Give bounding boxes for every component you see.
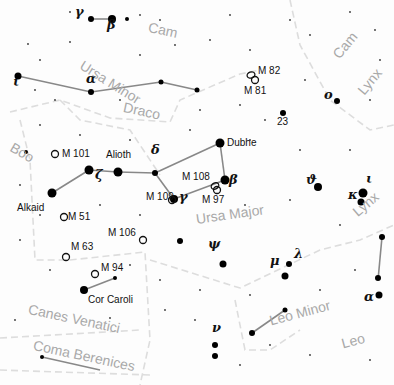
- greek-letter-label: ψ: [208, 237, 220, 250]
- greek-letter-label: λ: [294, 247, 303, 260]
- constellation-boundaries: [0, 0, 394, 385]
- greek-letter-label: δ: [151, 143, 160, 156]
- greek-letter-label: α: [364, 290, 374, 303]
- greek-letter-label: ι: [366, 172, 372, 185]
- greek-letter-label: ι: [13, 75, 19, 88]
- flamsteed-number-label: 23: [277, 117, 288, 127]
- star-name-label: Dubhe: [227, 138, 256, 148]
- messier-label: M 82: [258, 66, 280, 76]
- star-name-label: Cor Caroli: [88, 295, 133, 305]
- greek-letter-label: γ: [75, 5, 84, 18]
- greek-letter-label: α: [86, 72, 96, 85]
- star-chart: CamUrsa MinorCamDracoLynxBooUrsa MajorLy…: [0, 0, 394, 385]
- greek-letter-label: κ: [348, 188, 358, 201]
- greek-letter-label: ο: [324, 88, 333, 101]
- greek-letter-label: β: [229, 173, 238, 186]
- greek-letter-label: γ: [179, 190, 188, 203]
- chart-graphics: [0, 0, 394, 385]
- greek-letter-label: ϑ: [306, 173, 317, 186]
- star-name-label: Alkaid: [17, 203, 44, 213]
- messier-label: M 108: [182, 172, 210, 182]
- messier-label: M 63: [71, 242, 93, 252]
- messier-label: M 106: [108, 228, 136, 238]
- messier-label: M 94: [101, 263, 123, 273]
- messier-label: M 109: [146, 192, 174, 202]
- messier-label: M 97: [202, 195, 224, 205]
- greek-letter-label: μ: [270, 254, 280, 267]
- greek-letter-label: β: [107, 18, 116, 31]
- greek-letter-label: ν: [212, 321, 221, 334]
- greek-letter-label: ζ: [95, 168, 103, 181]
- star-name-label: Alioth: [106, 150, 131, 160]
- messier-label: M 51: [68, 212, 90, 222]
- messier-label: M 101: [62, 149, 90, 159]
- messier-label: M 81: [244, 86, 266, 96]
